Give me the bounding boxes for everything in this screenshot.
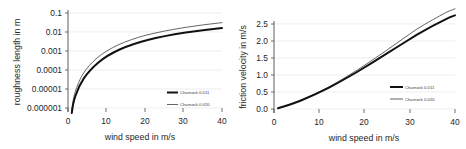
series-line-charnock-011 — [278, 15, 455, 108]
y-tick-label: 2.5 — [256, 19, 268, 29]
y-tick-label: 0.001 — [41, 46, 62, 56]
x-tick-label: 10 — [101, 116, 111, 126]
y-axis-label: friction velocity in m/s — [238, 25, 248, 109]
x-tick-label: 40 — [450, 117, 460, 127]
y-axis-label: roughness length in m — [12, 19, 22, 106]
chart-panel-roughness-length: 0.1 0.01 0.001 0.0001 0.00001 0.000001 0… — [0, 0, 233, 149]
legend-label-charnock-011: Charnock 0.011 — [180, 90, 210, 95]
y-tick-label: 0.0001 — [36, 65, 62, 75]
x-tick-label: 30 — [405, 117, 415, 127]
figure-container: 0.1 0.01 0.001 0.0001 0.00001 0.000001 0… — [0, 0, 466, 149]
series-line-charnock-020 — [278, 9, 455, 108]
legend-label-charnock-011: Charnock 0.011 — [405, 85, 435, 90]
x-tick-label: 30 — [178, 116, 188, 126]
legend-left: Charnock 0.011 Charnock 0.020 — [167, 90, 210, 107]
x-tickmarks-left — [68, 108, 222, 112]
y-tick-label: 0.5 — [256, 87, 268, 97]
y-tick-label: 0.01 — [46, 27, 63, 37]
roughness-length-plot: 0.1 0.01 0.001 0.0001 0.00001 0.000001 0… — [0, 0, 233, 149]
legend-right: Charnock 0.011 Charnock 0.020 — [390, 85, 435, 102]
y-tick-label: 0.000001 — [27, 103, 62, 113]
x-tick-label: 20 — [140, 116, 150, 126]
x-tick-label: 0 — [66, 116, 71, 126]
series-line-charnock-011 — [72, 28, 222, 113]
y-tick-label: 1.5 — [256, 53, 268, 63]
friction-velocity-plot: 2.5 2.0 1.5 1.0 0.5 0.0 0 10 20 30 40 wi… — [233, 0, 466, 149]
legend-label-charnock-020: Charnock 0.020 — [180, 102, 210, 107]
x-axis-label: wind speed in m/s — [104, 132, 176, 142]
x-tick-label: 0 — [272, 117, 277, 127]
y-tick-label: 0.1 — [50, 8, 62, 18]
y-tick-label: 2.0 — [256, 36, 268, 46]
x-axis-label: wind speed in m/s — [328, 133, 400, 143]
x-tickmarks-right — [274, 109, 455, 113]
y-tick-label: 0.0 — [256, 104, 268, 114]
y-tick-label: 0.00001 — [32, 84, 63, 94]
x-tick-label: 40 — [217, 116, 227, 126]
x-tick-label: 10 — [314, 117, 324, 127]
chart-panel-friction-velocity: 2.5 2.0 1.5 1.0 0.5 0.0 0 10 20 30 40 wi… — [233, 0, 466, 149]
y-tickmarks-right — [271, 24, 274, 109]
y-tick-label: 1.0 — [256, 70, 268, 80]
x-tick-label: 20 — [359, 117, 369, 127]
legend-label-charnock-020: Charnock 0.020 — [405, 97, 435, 102]
